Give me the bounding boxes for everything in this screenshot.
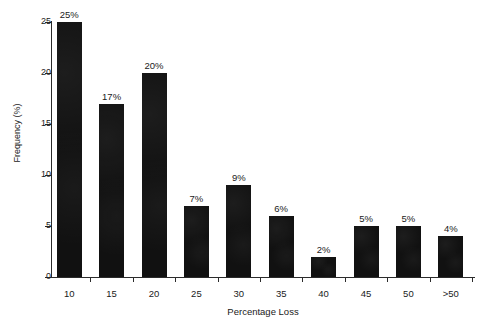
x-tick-label-50: 50 <box>388 288 428 299</box>
bar->50 <box>438 236 463 277</box>
x-tick-label-20: 20 <box>134 288 174 299</box>
bar-chart-figure: Frequency (%) Percentage Loss 0510152025… <box>0 0 490 328</box>
x-tick-mark <box>218 277 219 282</box>
y-tick-label: 10 <box>27 170 51 179</box>
bar-25 <box>184 206 209 277</box>
bar-value-label-35: 6% <box>259 203 303 214</box>
x-tick-label-25: 25 <box>176 288 216 299</box>
y-axis-line <box>51 21 52 278</box>
bar-15 <box>99 104 124 277</box>
y-tick-5: 5 <box>0 226 51 227</box>
x-tick-mark <box>472 277 473 282</box>
x-axis-line <box>51 277 475 278</box>
x-tick-label-10: 10 <box>49 288 89 299</box>
bar-35 <box>269 216 294 277</box>
y-tick-25: 25 <box>0 22 51 23</box>
x-axis-title: Percentage Loss <box>51 306 475 317</box>
x-tick-label-35: 35 <box>261 288 301 299</box>
x-tick-mark <box>90 277 91 282</box>
x-tick-mark <box>345 277 346 282</box>
bar-45 <box>354 226 379 277</box>
x-tick-mark <box>175 277 176 282</box>
y-tick-15: 15 <box>0 124 51 125</box>
bar-10 <box>57 22 82 277</box>
bar-30 <box>226 185 251 277</box>
bar-value-label-20: 20% <box>132 60 176 71</box>
y-tick-label: 0 <box>27 272 51 281</box>
bar-value-label-30: 9% <box>217 172 261 183</box>
x-tick-mark <box>387 277 388 282</box>
bar-40 <box>311 257 336 277</box>
x-tick-mark <box>260 277 261 282</box>
x-tick-label-40: 40 <box>304 288 344 299</box>
y-tick-label: 15 <box>27 119 51 128</box>
y-tick-20: 20 <box>0 73 51 74</box>
bar-50 <box>396 226 421 277</box>
bar-value-label-10: 25% <box>47 9 91 20</box>
bar-value-label-50: 5% <box>386 213 430 224</box>
x-tick-label->50: >50 <box>431 288 471 299</box>
bar-value-label-25: 7% <box>174 193 218 204</box>
bar-value-label->50: 4% <box>429 223 473 234</box>
bar-value-label-15: 17% <box>90 91 134 102</box>
y-tick-10: 10 <box>0 175 51 176</box>
y-tick-label: 20 <box>27 68 51 77</box>
x-tick-label-30: 30 <box>219 288 259 299</box>
y-tick-label: 5 <box>27 221 51 230</box>
bar-20 <box>142 73 167 277</box>
bar-value-label-40: 2% <box>302 244 346 255</box>
x-tick-mark <box>430 277 431 282</box>
bar-value-label-45: 5% <box>344 213 388 224</box>
x-tick-mark <box>133 277 134 282</box>
x-tick-label-15: 15 <box>92 288 132 299</box>
x-tick-label-45: 45 <box>346 288 386 299</box>
x-tick-mark <box>302 277 303 282</box>
y-tick-0: 0 <box>0 277 51 278</box>
y-axis-title: Frequency (%) <box>12 68 22 198</box>
